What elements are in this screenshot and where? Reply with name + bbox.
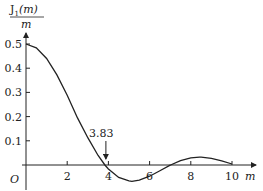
x-tick-label: 8 — [187, 170, 194, 183]
x-ticks: 246810 — [64, 161, 239, 183]
x-tick-label: 4 — [105, 170, 112, 183]
x-axis-label: m — [245, 170, 255, 183]
annotation: 3.83 — [89, 127, 114, 159]
x-tick-label: 10 — [225, 170, 239, 183]
origin-label: O — [10, 173, 19, 186]
chart: J1(m) m O m 246810 0.10.20.30.40.5 3.83 — [0, 0, 263, 191]
y-tick-label: 0.3 — [5, 86, 23, 99]
svg-text:3.83: 3.83 — [89, 127, 114, 140]
y-axis-label: J1(m) m — [9, 3, 44, 31]
y-tick-label: 0.2 — [5, 111, 23, 124]
y-tick-label: 0.5 — [5, 38, 23, 51]
y-tick-label: 0.1 — [5, 135, 23, 148]
svg-text:m: m — [21, 18, 31, 31]
data-line — [26, 44, 232, 181]
x-tick-label: 2 — [64, 170, 71, 183]
y-tick-label: 0.4 — [5, 62, 23, 75]
svg-text:J1(m): J1(m) — [9, 3, 38, 18]
